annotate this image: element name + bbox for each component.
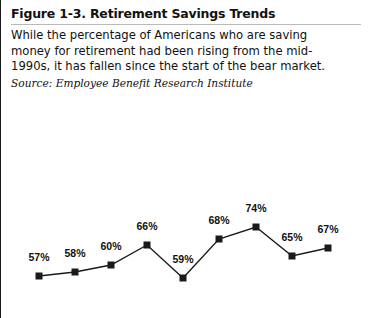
figure-header: Figure 1-3. Retirement Savings Trends Wh…: [11, 6, 363, 90]
data-point-label: 57%: [28, 251, 50, 263]
data-point-label: 68%: [208, 214, 230, 226]
data-point-label: 74%: [245, 202, 267, 214]
data-point-marker: [325, 245, 332, 252]
data-point-marker: [72, 269, 79, 276]
data-point-label: 66%: [136, 220, 158, 232]
data-point-marker: [216, 236, 223, 243]
data-point-marker: [144, 242, 151, 249]
data-point-marker: [36, 273, 43, 280]
figure-container: Figure 1-3. Retirement Savings Trends Wh…: [0, 0, 373, 318]
chart-plot-area: 57% 58% 60% 66% 59% 68% 74% 65% 67% Perc…: [1, 104, 373, 318]
data-point-marker: [289, 253, 296, 260]
title-divider: [11, 24, 361, 25]
data-point-label: 65%: [281, 231, 303, 243]
data-point-label: 58%: [64, 247, 86, 259]
data-point-label: 67%: [317, 223, 339, 235]
figure-title: Figure 1-3. Retirement Savings Trends: [11, 6, 363, 22]
data-point-label: 59%: [172, 253, 194, 265]
data-point-label: 60%: [100, 240, 122, 252]
figure-caption: While the percentage of Americans who ar…: [11, 28, 341, 75]
figure-source: Source: Employee Benefit Research Instit…: [11, 76, 363, 90]
line-chart: 57% 58% 60% 66% 59% 68% 74% 65% 67% Perc…: [1, 104, 373, 318]
data-point-marker: [253, 224, 260, 231]
data-point-marker: [180, 275, 187, 282]
data-point-marker: [108, 262, 115, 269]
